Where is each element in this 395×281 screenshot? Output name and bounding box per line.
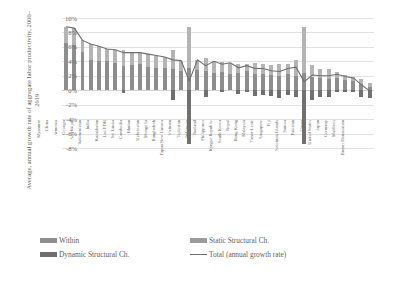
legend-swatch-static — [190, 238, 207, 243]
x-tick-label: Bhutan — [126, 120, 131, 180]
bar-segment-within — [72, 45, 76, 90]
x-tick-label: Lao PDR — [102, 120, 107, 180]
x-tick-label: Vietnam — [167, 120, 172, 180]
bar-segment-within — [327, 79, 331, 91]
x-tick-label: Germany — [323, 120, 328, 180]
x-tick-label: Uzbekistan — [135, 120, 140, 180]
bar-segment-static — [204, 58, 208, 71]
legend-item-within: Within — [40, 236, 190, 245]
bar-segment-dynamic — [245, 90, 249, 91]
bar-segment-static — [245, 64, 249, 71]
bar-segment-within — [204, 71, 208, 90]
x-axis-labels: MyanmarChinaArmeniaGeorgiaAzerbaijanTurk… — [62, 150, 374, 212]
bar-segment-within — [286, 74, 290, 91]
bar-segment-within — [187, 68, 191, 90]
bar-segment-dynamic — [277, 90, 281, 98]
bar-segment-within — [163, 68, 167, 90]
bar-segment-within — [294, 76, 298, 90]
bar-segment-static — [286, 64, 290, 73]
bar-segment-static — [212, 61, 216, 73]
x-tick-label: Tajikistan — [176, 120, 181, 180]
bar-segment-static — [269, 65, 273, 75]
bar-segment-dynamic — [171, 90, 175, 100]
bar-segment-dynamic — [253, 90, 257, 96]
bar-segment-static — [81, 40, 85, 52]
x-tick-label: Solomon Islands — [274, 120, 279, 180]
bar-segment-static — [327, 69, 331, 79]
bar-segment-static — [138, 53, 142, 65]
bar-segment-within — [228, 74, 232, 90]
x-tick-label: Tonga — [299, 120, 304, 180]
bar-segment-dynamic — [310, 90, 314, 100]
bar-segment-within — [81, 52, 85, 90]
bar-segment-static — [359, 79, 363, 84]
x-tick-label: South Korea — [217, 120, 222, 180]
x-tick-label: Pakistan — [290, 120, 295, 180]
bar-segment-within — [261, 74, 265, 91]
bar-segment-within — [318, 78, 322, 90]
bar-segment-within — [130, 65, 134, 90]
x-tick-label: Kyrgyz Republic — [208, 120, 213, 180]
bar-slot — [349, 18, 357, 148]
bar-segment-dynamic — [261, 90, 265, 94]
legend-item-total: Total (annual growth rate) — [190, 250, 286, 259]
bar-segment-static — [261, 64, 265, 73]
legend-label-dynamic: Dynamic Structural Ch. — [59, 250, 129, 259]
bar-segment-dynamic — [286, 90, 290, 94]
x-tick-label: Bangladesh — [151, 120, 156, 180]
bar-segment-within — [212, 73, 216, 90]
bar-segment-dynamic — [269, 90, 273, 96]
x-tick-label: Thailand — [192, 120, 197, 180]
legend-item-static: Static Structural Ch. — [190, 236, 269, 245]
bar-segment-within — [146, 67, 150, 90]
x-tick-label: Timor-Leste — [249, 120, 254, 180]
bar-segment-within — [236, 73, 240, 90]
x-tick-label: Philippines — [200, 120, 205, 180]
bar-segment-within — [335, 78, 339, 90]
bar-segment-within — [269, 75, 273, 90]
legend-swatch-within — [40, 238, 57, 243]
bar-segment-dynamic — [204, 90, 208, 97]
bar-segment-static — [105, 49, 109, 61]
bar-segment-within — [179, 71, 183, 90]
bar-segment-static — [277, 64, 281, 76]
bar-segment-dynamic — [122, 90, 126, 93]
bar-segment-static — [179, 61, 183, 72]
bar-segment-static — [253, 63, 257, 75]
bar-segment-within — [220, 72, 224, 90]
x-tick-label: Maldives — [331, 120, 336, 180]
y-tick-label: 8% — [51, 29, 77, 36]
bar-segment-dynamic — [351, 90, 355, 91]
y-tick-label: -2% — [51, 101, 77, 108]
bar-segment-static — [343, 75, 347, 80]
bar-segment-static — [97, 46, 101, 60]
x-label-slot: Germany — [349, 150, 357, 212]
bar-segment-within — [302, 73, 306, 90]
bar-segment-static — [220, 62, 224, 72]
legend-label-within: Within — [59, 236, 79, 245]
legend-swatch-dynamic — [40, 252, 57, 257]
bar-segment-within — [122, 66, 126, 90]
x-tick-label: India — [85, 120, 90, 180]
bar-segment-static — [318, 69, 322, 78]
bar-segment-within — [195, 70, 199, 90]
bar-slot — [366, 18, 374, 148]
legend-label-static: Static Structural Ch. — [209, 236, 269, 245]
x-label-slot: Brunei Darussalam — [366, 150, 374, 212]
bar-segment-within — [245, 71, 249, 90]
x-tick-label: Samoa — [282, 120, 287, 180]
bar-segment-static — [368, 83, 372, 87]
bar-segment-static — [154, 56, 158, 68]
bar-slot — [357, 18, 365, 148]
bar-segment-dynamic — [236, 90, 240, 94]
bar-segment-dynamic — [220, 90, 224, 92]
bar-segment-within — [171, 69, 175, 91]
chart-figure: Average, annual growth rate of aggregate… — [0, 0, 395, 281]
bar-segment-static — [146, 54, 150, 67]
bar-segment-within — [277, 76, 281, 90]
legend-label-total: Total (annual growth rate) — [209, 250, 286, 259]
x-tick-label: Azerbaijan — [69, 120, 74, 180]
bar-segment-dynamic — [368, 90, 372, 98]
y-tick-label: 4% — [51, 58, 77, 65]
bar-segment-static — [89, 44, 93, 60]
